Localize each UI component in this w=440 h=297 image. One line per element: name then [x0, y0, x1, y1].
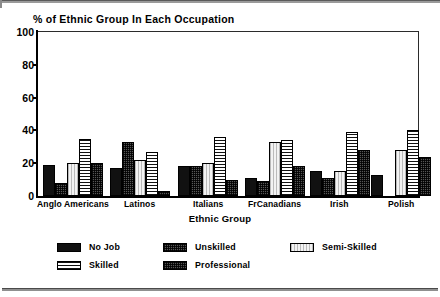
bar: [190, 166, 202, 196]
bar: [202, 163, 214, 196]
bar: [110, 168, 122, 196]
y-tick-mark: [33, 129, 37, 131]
bar: [79, 139, 91, 196]
y-axis-tick-labels: 100806040200: [2, 0, 34, 200]
bar-group: [43, 32, 103, 196]
bottom-border-rule: [2, 288, 438, 291]
bar: [281, 140, 293, 196]
y-tick-label: 40: [4, 125, 34, 135]
x-category-label: Latinos: [124, 199, 155, 209]
bar-group: [310, 32, 370, 196]
y-tick-label: 100: [4, 27, 34, 37]
x-axis-line: [36, 196, 420, 198]
x-category-label: Irish: [330, 199, 349, 209]
bar: [371, 175, 383, 196]
bar: [419, 157, 431, 196]
x-axis-category-labels: Anglo AmericansLatinosItaliansFrCanadian…: [0, 199, 440, 212]
bar: [358, 150, 370, 196]
y-tick-mark: [33, 97, 37, 99]
bar: [91, 163, 103, 196]
bar: [346, 132, 358, 196]
chart-legend: No JobUnskilledSemi-SkilledSkilledProfes…: [0, 242, 440, 282]
bar: [134, 160, 146, 196]
x-category-label: Polish: [388, 199, 414, 209]
y-tick-mark: [33, 162, 37, 164]
legend-swatch-icon: [57, 243, 81, 252]
bar: [395, 150, 407, 196]
bar: [122, 142, 134, 196]
chart-screenshot: % of Ethnic Group In Each Occupation 100…: [0, 0, 440, 297]
bar-group: [245, 32, 305, 196]
legend-swatch-icon: [57, 261, 81, 270]
bar: [67, 163, 79, 196]
y-tick-label: 80: [4, 60, 34, 70]
bar-groups: [38, 32, 418, 196]
bar: [269, 142, 281, 196]
legend-swatch-icon: [163, 243, 187, 252]
y-tick-mark: [33, 64, 37, 66]
bar-group: [371, 32, 431, 196]
bar: [43, 165, 55, 196]
bar: [146, 152, 158, 196]
x-category-label: Italians: [193, 199, 223, 209]
bar: [158, 191, 170, 196]
x-category-label: Anglo Americans: [37, 199, 109, 209]
legend-label: Semi-Skilled: [322, 242, 377, 253]
bar: [178, 166, 190, 196]
x-axis-title: Ethnic Group: [0, 213, 440, 224]
legend-label: No Job: [89, 242, 120, 253]
bar-group: [178, 32, 238, 196]
x-category-label: FrCanadians: [248, 199, 301, 209]
bar-group: [110, 32, 170, 196]
bar: [55, 183, 67, 196]
bar: [257, 181, 269, 196]
legend-label: Skilled: [89, 260, 119, 271]
bar: [334, 171, 346, 196]
legend-label: Professional: [195, 260, 250, 271]
bar: [214, 137, 226, 196]
bar: [245, 178, 257, 196]
bar: [293, 166, 305, 196]
bar: [407, 130, 419, 196]
legend-swatch-icon: [290, 243, 314, 252]
bar: [310, 171, 322, 196]
bar: [226, 180, 238, 196]
chart-title: % of Ethnic Group In Each Occupation: [33, 13, 235, 25]
bar: [322, 178, 334, 196]
y-tick-label: 20: [4, 158, 34, 168]
y-tick-label: 60: [4, 93, 34, 103]
legend-label: Unskilled: [195, 242, 236, 253]
top-border-rule: [0, 0, 440, 3]
legend-swatch-icon: [163, 261, 187, 270]
